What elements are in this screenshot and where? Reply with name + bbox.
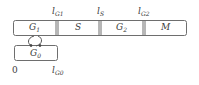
origin-label: 0 [12,66,18,75]
boundary-label-lg2: lG2 [138,7,150,17]
divider-g2-m [143,21,145,36]
g1-g0-transition-arrows [28,36,41,47]
phase-label-s: S [75,23,81,32]
boundary-label-ls: lS [97,7,104,17]
boundary-label-lg0: lG0 [52,66,64,76]
phase-label-g0: G0 [30,49,41,59]
phase-label-g2: G2 [116,23,127,33]
cell-cycle-diagram: G1 S G2 M G0 lG1 lS lG2 0 lG0 [0,0,199,85]
divider-g1-s [56,21,58,36]
phase-label-g1: G1 [29,23,40,33]
divider-s-g2 [99,21,101,36]
boundary-label-lg1: lG1 [52,7,64,17]
phase-label-m: M [161,23,170,32]
